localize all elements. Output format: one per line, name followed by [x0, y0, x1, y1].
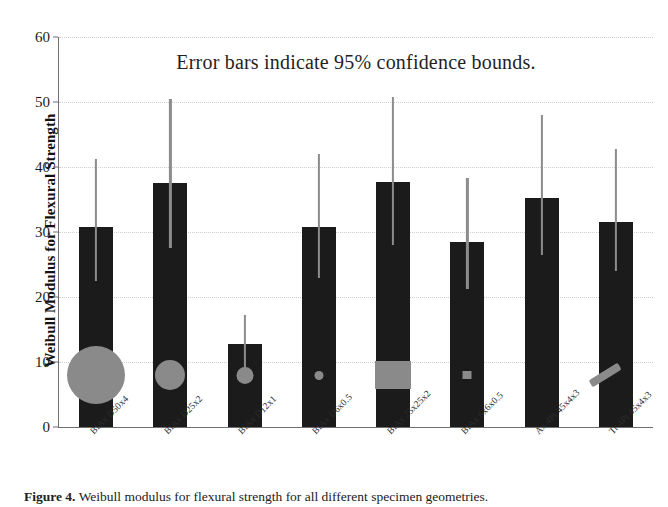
x-axis-tick-labels: BiAx D50x4BiAx D25x2BiAx D12x1BiAx D6x0.…	[58, 429, 652, 489]
specimen-shape-square	[463, 371, 472, 379]
specimen-shape-circle	[67, 346, 125, 404]
caption-text: Weibull modulus for flexural strength fo…	[76, 489, 489, 504]
y-tick-mark	[53, 102, 58, 103]
specimen-shape-circle	[155, 360, 185, 390]
y-tick-mark	[53, 232, 58, 233]
figure-container: Weibull Modulus for Flexural Strength Er…	[0, 0, 668, 507]
caption-prefix: Figure 4.	[24, 489, 76, 504]
bar-group	[579, 37, 653, 427]
bar-group	[505, 37, 579, 427]
error-bar	[541, 115, 543, 255]
specimen-shape-circle	[314, 371, 323, 380]
y-tick-label: 30	[35, 224, 50, 241]
specimen-shape-square	[375, 361, 411, 389]
bar-group	[282, 37, 356, 427]
specimen-shape-circle	[236, 367, 253, 384]
y-tick-mark	[53, 427, 58, 428]
error-bar	[466, 178, 468, 289]
error-bar	[95, 159, 97, 281]
y-tick-label: 10	[35, 354, 50, 371]
error-bar	[615, 149, 617, 271]
specimen-shape-bar-vertical	[533, 345, 538, 405]
plot-area: Error bars indicate 95% confidence bound…	[58, 37, 653, 428]
y-tick-label: 40	[35, 159, 50, 176]
y-tick-label: 60	[35, 29, 50, 46]
y-tick-mark	[53, 167, 58, 168]
error-bar	[318, 154, 320, 278]
y-tick-mark	[53, 362, 58, 363]
bar-group	[59, 37, 133, 427]
error-bar	[169, 99, 171, 249]
y-tick-mark	[53, 37, 58, 38]
bar-group	[133, 37, 207, 427]
y-tick-mark	[53, 297, 58, 298]
y-tick-label: 50	[35, 94, 50, 111]
error-bar	[244, 315, 246, 370]
figure-caption: Figure 4. Weibull modulus for flexural s…	[24, 489, 648, 506]
bar-group	[356, 37, 430, 427]
bar-group	[208, 37, 282, 427]
bar-group	[430, 37, 504, 427]
error-bar	[392, 97, 394, 245]
y-tick-label: 0	[43, 419, 51, 436]
y-tick-label: 20	[35, 289, 50, 306]
